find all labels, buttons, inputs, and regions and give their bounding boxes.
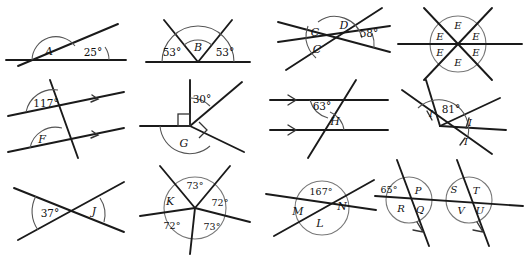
label-angle-S: S	[451, 184, 458, 195]
label-angle-37: 37°	[41, 207, 60, 219]
label-angle-25: 25°	[84, 46, 103, 58]
label-angle-R: R	[396, 203, 405, 214]
angle-arc-25	[105, 47, 109, 60]
label-angle-F: F	[37, 133, 46, 146]
figure-f-parallel-lines: 117° F	[0, 78, 132, 160]
figure-b-angles-on-straight-line: 53° B 53°	[132, 0, 264, 86]
label-angle-H: H	[329, 115, 340, 128]
label-angle-D: D	[339, 19, 349, 32]
label-angle-C1: C	[311, 26, 320, 39]
figure-h-parallel-lines: 63° H	[264, 78, 396, 160]
right-angle-square-left	[178, 114, 190, 126]
ray-left	[140, 208, 195, 216]
line-1	[14, 188, 124, 232]
parallel-line-top	[8, 92, 124, 116]
label-angle-58: 58°	[360, 27, 379, 39]
label-angle-right-53: 53°	[216, 46, 235, 58]
label-angle-63: 63°	[313, 100, 332, 112]
ray-bottom	[190, 208, 195, 254]
figure-a-angle-on-straight-line: A 25°	[0, 0, 132, 86]
slanted-ray-lower	[190, 126, 244, 152]
label-angle-N: N	[336, 200, 347, 213]
label-angle-E2: E	[435, 31, 444, 42]
label-angle-Q: Q	[416, 204, 424, 215]
label-angle-T: T	[473, 185, 481, 196]
label-angle-72-bottom-left: 72°	[164, 220, 181, 231]
label-angle-G: G	[180, 137, 189, 150]
label-angle-B: B	[193, 41, 202, 54]
transversal	[50, 80, 78, 158]
figure-e-six-equal-angles: E E E E E E	[396, 0, 526, 86]
figure-g-right-angles: 30° G	[132, 78, 264, 160]
label-angle-A: A	[44, 45, 53, 58]
label-angle-U: U	[476, 205, 485, 216]
line-2	[18, 182, 124, 240]
figure-i-equal-angles: I 81° I I	[396, 78, 526, 160]
figure-p-to-u-parallel-transversals: 65° P R Q S T V U	[375, 160, 526, 257]
label-angle-73-top: 73°	[187, 180, 204, 191]
label-angle-73-bottom-right: 73°	[204, 221, 221, 232]
label-angle-E1: E	[453, 20, 462, 31]
ray-upper-left	[426, 80, 440, 126]
label-angle-E5: E	[471, 47, 480, 58]
figure-c-d-angles-at-a-point: C C D 58°	[264, 0, 396, 86]
figure-j-vertically-opposite: 37° J	[0, 160, 132, 257]
label-angle-M: M	[291, 205, 304, 218]
label-angle-72-right: 72°	[212, 197, 229, 208]
label-angle-C2: C	[313, 43, 322, 56]
label-angle-K: K	[165, 195, 175, 208]
label-angle-E3: E	[471, 31, 480, 42]
angle-arc-J	[100, 198, 105, 222]
label-angle-J: J	[90, 205, 97, 218]
label-angle-81: 81°	[442, 103, 461, 115]
label-angle-117: 117°	[33, 97, 58, 109]
label-angle-L: L	[315, 217, 323, 230]
label-angle-E4: E	[435, 47, 444, 58]
label-angle-P: P	[414, 185, 422, 196]
worksheet-sheet: A 25° 53° B 53° C C D	[0, 0, 526, 257]
label-angle-I2: I	[467, 117, 473, 128]
angle-arc-37	[32, 196, 38, 230]
label-angle-30: 30°	[193, 93, 212, 105]
label-angle-E6: E	[453, 57, 462, 68]
figure-k-angles-around-point: 73° K 72° 72° 73°	[132, 160, 264, 257]
label-angle-V: V	[457, 205, 466, 216]
ray-right	[440, 126, 506, 130]
label-angle-65: 65°	[381, 184, 398, 195]
label-angle-167: 167°	[310, 186, 333, 197]
label-angle-left-53: 53°	[163, 46, 182, 58]
parallel-line-bottom	[8, 128, 124, 152]
